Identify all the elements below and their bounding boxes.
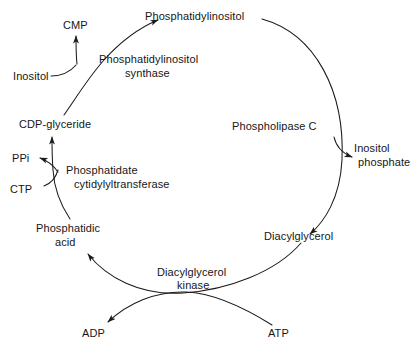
- metabolite-inositol-phosphate-line1: Inositol: [354, 142, 390, 155]
- enzyme-diacylglycerol-kinase-line2: kinase: [177, 279, 209, 292]
- phosphatidylinositol-cycle-diagram: Phosphatidylinositol Inositol phosphate …: [0, 0, 420, 351]
- enzyme-phosphatidate-cytidylyltransferase-line1: Phosphatidate: [66, 164, 138, 177]
- metabolite-adp: ADP: [82, 327, 105, 340]
- metabolite-diacylglycerol: Diacylglycerol: [264, 230, 333, 243]
- pathway-arrows-svg: [0, 0, 420, 351]
- enzyme-phosphatidylinositol-synthase-line1: Phosphatidylinositol: [99, 53, 198, 66]
- metabolite-inositol-phosphate-line2: phosphate: [358, 156, 410, 169]
- metabolite-inositol: Inositol: [13, 70, 49, 83]
- enzyme-phosphatidylinositol-synthase-line2: synthase: [125, 67, 170, 80]
- metabolite-phosphatidic-acid-line2: acid: [55, 236, 76, 249]
- arc-branch-ctp-in: [44, 170, 58, 186]
- arc-atp-to-adp: [108, 292, 272, 325]
- metabolite-atp: ATP: [268, 327, 289, 340]
- metabolite-cmp: CMP: [63, 19, 88, 32]
- enzyme-diacylglycerol-kinase-line1: Diacylglycerol: [157, 266, 226, 279]
- metabolite-ppi: PPi: [12, 152, 29, 165]
- arc-branch-inositol-in: [51, 65, 76, 76]
- arc-branch-inositol-phosphate: [334, 137, 352, 157]
- arc-branch-ppi-out: [40, 158, 58, 172]
- metabolite-cdp-glyceride: CDP-glyceride: [19, 118, 91, 131]
- metabolite-phosphatidylinositol: Phosphatidylinositol: [145, 10, 244, 23]
- metabolite-ctp: CTP: [10, 183, 32, 196]
- enzyme-phospholipase-c: Phospholipase C: [232, 120, 317, 133]
- arc-branch-cmp-out: [76, 36, 77, 64]
- enzyme-phosphatidate-cytidylyltransferase-line2: cytidylyltransferase: [74, 178, 170, 191]
- metabolite-phosphatidic-acid-line1: Phosphatidic: [36, 222, 100, 235]
